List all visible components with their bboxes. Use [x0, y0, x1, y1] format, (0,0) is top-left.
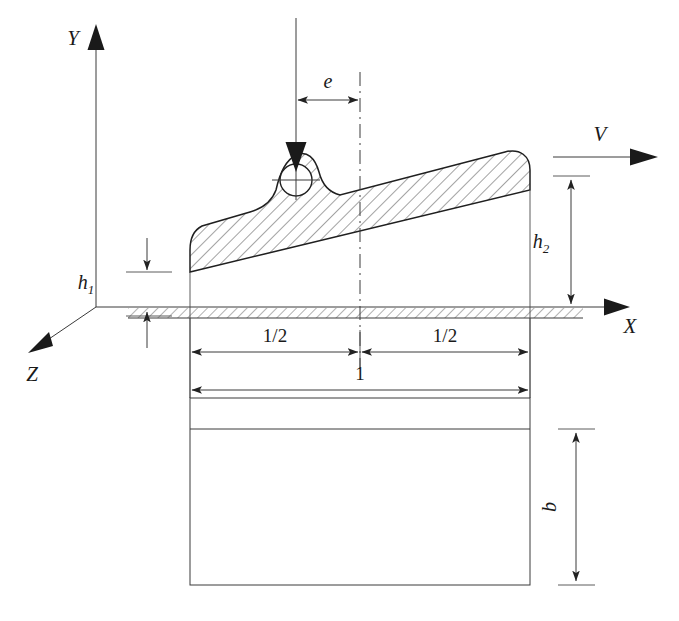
runner-surface [128, 308, 583, 318]
x-axis-label: X [623, 314, 638, 338]
velocity-label: V [594, 122, 609, 146]
z-axis-line [46, 307, 96, 341]
velocity-arrowhead [630, 149, 658, 166]
length-dimensions: 1/2 1/2 1 [190, 318, 530, 398]
diagram-canvas: e h1 h2 V Y X Z [0, 0, 679, 621]
eccentricity-label: e [324, 70, 333, 92]
engineering-diagram: e h1 h2 V Y X Z [0, 0, 679, 621]
right-half-label: 1/2 [433, 325, 457, 346]
pad-width-dimension: b [538, 429, 595, 585]
pad-width-label: b [538, 502, 560, 512]
inlet-film-thickness-dimension: h1 [78, 238, 172, 348]
plan-view-rectangle [190, 398, 530, 585]
y-axis-label: Y [67, 26, 81, 50]
eccentricity-dimension: e [298, 70, 358, 100]
h2-label: h2 [533, 230, 550, 256]
runner-hatch-band [128, 308, 583, 318]
left-half-label: 1/2 [263, 325, 287, 346]
z-axis-arrowhead [28, 332, 53, 353]
y-axis-arrowhead [88, 24, 105, 50]
x-axis-arrowhead [604, 299, 630, 316]
z-axis-label: Z [26, 362, 38, 386]
full-length-label: 1 [355, 363, 365, 384]
applied-load-indicator [286, 18, 307, 172]
pad-plan-view [190, 398, 530, 585]
h1-label: h1 [78, 271, 95, 297]
outlet-film-thickness-dimension: h2 [533, 176, 590, 304]
velocity-indicator: V [553, 122, 658, 166]
